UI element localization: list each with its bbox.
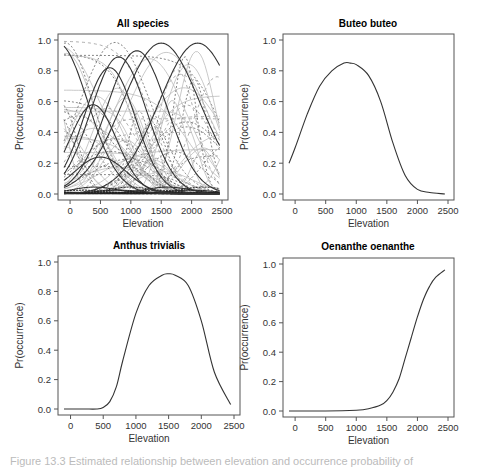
x-tick-label: 1000 (125, 420, 146, 431)
y-tick-label: 0.2 (38, 158, 51, 169)
x-tick-label: 500 (93, 205, 109, 216)
chart-title: Buteo buteo (339, 18, 397, 29)
chart-panel-1: All species050010001500200025000.00.20.4… (14, 18, 233, 229)
x-tick-label: 500 (95, 420, 111, 431)
x-tick-label: 2000 (407, 205, 428, 216)
species-curve-background (64, 111, 220, 191)
x-axis-label: Elevation (348, 435, 389, 446)
y-tick-label: 0.2 (263, 376, 276, 387)
y-tick-label: 1.0 (38, 257, 51, 268)
x-axis-label: Elevation (348, 218, 389, 229)
species-curve-background (64, 135, 220, 194)
response-curve (289, 270, 445, 411)
y-tick-label: 1.0 (263, 259, 276, 270)
y-tick-label: 0.2 (263, 158, 276, 169)
y-tick-label: 0.0 (263, 189, 276, 200)
plot-frame (283, 258, 454, 417)
x-tick-label: 1500 (376, 205, 397, 216)
x-tick-label: 1500 (151, 205, 172, 216)
plot-frame (283, 34, 454, 200)
y-tick-label: 0.8 (263, 288, 276, 299)
x-tick-label: 1000 (120, 205, 141, 216)
x-tick-label: 2500 (437, 205, 458, 216)
y-tick-label: 1.0 (38, 35, 51, 46)
x-tick-label: 500 (318, 205, 334, 216)
y-tick-label: 0.4 (38, 127, 51, 138)
x-tick-label: 0 (67, 205, 72, 216)
x-tick-label: 500 (318, 422, 334, 433)
chart-title: Anthus trivialis (113, 240, 186, 251)
x-tick-label: 2000 (407, 422, 428, 433)
y-tick-label: 0.4 (263, 127, 276, 138)
x-tick-label: 0 (292, 205, 297, 216)
x-axis-label: Elevation (128, 433, 169, 444)
chart-title: Oenanthe oenanthe (321, 241, 415, 252)
x-tick-label: 0 (292, 422, 297, 433)
y-tick-label: 0.2 (38, 374, 51, 385)
y-tick-label: 0.0 (38, 404, 51, 415)
y-tick-label: 0.8 (263, 65, 276, 76)
y-tick-label: 0.8 (38, 65, 51, 76)
y-tick-label: 0.8 (38, 286, 51, 297)
y-axis-label: Pr(occurrence) (239, 304, 250, 370)
chart-panel-2: Buteo buteo050010001500200025000.00.20.4… (239, 18, 459, 229)
x-tick-label: 1500 (376, 422, 397, 433)
x-tick-label: 1000 (346, 422, 367, 433)
chart-title: All species (117, 18, 170, 29)
y-tick-label: 0.6 (263, 96, 276, 107)
y-tick-label: 0.0 (38, 189, 51, 200)
y-tick-label: 0.4 (38, 345, 51, 356)
x-tick-label: 0 (68, 420, 73, 431)
x-tick-label: 2500 (211, 205, 232, 216)
y-axis-label: Pr(occurrence) (14, 302, 25, 368)
y-tick-label: 0.0 (263, 406, 276, 417)
chart-panel-4: Oenanthe oenanthe050010001500200025000.0… (239, 241, 459, 446)
x-axis-label: Elevation (122, 218, 163, 229)
response-curve (64, 274, 231, 409)
x-tick-label: 2000 (181, 205, 202, 216)
response-curve (289, 62, 445, 194)
plot-frame (58, 256, 240, 415)
y-tick-label: 0.6 (38, 96, 51, 107)
chart-panel-3: Anthus trivialis050010001500200025000.00… (14, 240, 245, 444)
y-axis-label: Pr(occurrence) (14, 84, 25, 150)
x-tick-label: 1000 (346, 205, 367, 216)
y-tick-label: 0.6 (38, 315, 51, 326)
x-tick-label: 2000 (191, 420, 212, 431)
species-curve (64, 43, 220, 188)
x-tick-label: 2500 (223, 420, 244, 431)
y-tick-label: 0.6 (263, 317, 276, 328)
x-tick-label: 2500 (437, 422, 458, 433)
y-tick-label: 0.4 (263, 347, 276, 358)
y-tick-label: 1.0 (263, 35, 276, 46)
y-axis-label: Pr(occurrence) (239, 84, 250, 150)
x-tick-label: 1500 (158, 420, 179, 431)
figure-caption: Figure 13.3 Estimated relationship betwe… (10, 455, 413, 467)
